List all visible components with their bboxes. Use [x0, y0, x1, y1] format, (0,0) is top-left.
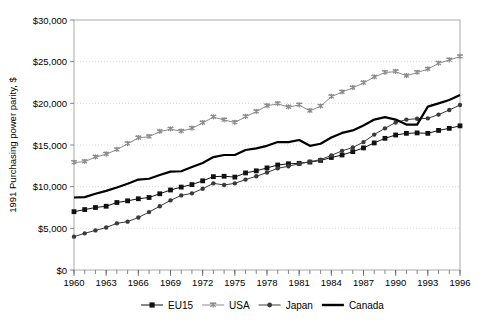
x-tick-label: 1972	[192, 277, 213, 288]
data-point	[308, 159, 312, 163]
data-point	[200, 120, 206, 125]
data-point	[222, 174, 227, 179]
y-tick-label: $0	[56, 265, 67, 276]
data-point	[72, 234, 76, 238]
data-point	[233, 181, 237, 185]
data-point	[276, 166, 280, 170]
data-point	[72, 209, 77, 214]
data-point	[190, 182, 195, 187]
data-point	[179, 185, 184, 190]
data-point	[371, 74, 377, 79]
legend-label: EU15	[168, 300, 193, 311]
data-point	[211, 181, 215, 185]
data-point	[372, 141, 377, 146]
data-point	[114, 200, 119, 205]
chart-legend: EU15USAJapanCanada	[141, 300, 384, 311]
x-axis-ticks	[74, 270, 460, 276]
data-point	[297, 162, 301, 166]
data-point	[125, 219, 129, 223]
y-axis-ticks	[70, 20, 74, 270]
legend-item-canada[interactable]: Canada	[322, 300, 384, 311]
data-point	[415, 131, 420, 136]
series-eu15	[72, 123, 463, 214]
data-point	[243, 171, 248, 176]
data-point	[458, 103, 462, 107]
data-point	[232, 175, 237, 180]
legend-item-eu15[interactable]: EU15	[141, 300, 193, 311]
data-point	[286, 164, 290, 168]
data-point	[114, 147, 120, 152]
y-axis-tick-labels: $0$5,000$10,000$15,000$20,000$25,000$30,…	[33, 15, 67, 276]
y-axis-title: 1991 Purchasing power parity, $	[7, 77, 18, 213]
data-point	[458, 123, 463, 128]
data-point	[115, 221, 119, 225]
x-axis-tick-labels: 1960196319661969197219751978198119841987…	[63, 277, 470, 288]
x-tick-label: 1990	[385, 277, 406, 288]
data-point	[253, 109, 259, 114]
data-series-layer	[71, 54, 463, 239]
data-point	[254, 168, 259, 173]
x-tick-label: 1969	[160, 277, 181, 288]
x-tick-label: 1975	[224, 277, 245, 288]
data-point	[125, 141, 131, 146]
data-point	[243, 177, 247, 181]
data-point	[104, 204, 109, 209]
legend-marker-circle	[267, 303, 272, 308]
data-point	[404, 131, 409, 136]
y-tick-label: $30,000	[33, 15, 67, 26]
x-tick-label: 1996	[449, 277, 470, 288]
x-tick-label: 1984	[321, 277, 342, 288]
data-point	[457, 54, 463, 59]
data-point	[351, 145, 355, 149]
legend-item-usa[interactable]: USA	[202, 300, 250, 311]
data-point	[190, 191, 194, 195]
data-point	[243, 114, 249, 119]
data-point	[350, 85, 356, 90]
data-point	[426, 116, 430, 120]
data-point	[200, 178, 205, 183]
data-point	[383, 136, 388, 141]
data-point	[436, 128, 441, 133]
data-point	[447, 108, 451, 112]
series-usa	[71, 54, 463, 165]
x-tick-label: 1960	[63, 277, 84, 288]
legend-label: Japan	[286, 300, 313, 311]
legend-item-japan[interactable]: Japan	[259, 300, 313, 311]
data-point	[361, 146, 366, 151]
data-point	[93, 205, 98, 210]
data-point	[425, 131, 430, 136]
data-point	[265, 166, 270, 171]
data-point	[447, 126, 452, 131]
data-point	[104, 225, 108, 229]
data-point	[296, 102, 302, 107]
y-tick-label: $5,000	[38, 223, 67, 234]
x-tick-label: 1966	[128, 277, 149, 288]
data-point	[200, 187, 204, 191]
data-point	[136, 196, 141, 201]
data-point	[147, 210, 151, 214]
data-point	[211, 174, 216, 179]
data-point	[147, 195, 152, 200]
data-point	[210, 114, 216, 119]
series-canada	[74, 95, 460, 198]
data-point	[157, 191, 162, 196]
data-point	[350, 149, 355, 154]
data-point	[361, 140, 365, 144]
data-point	[179, 193, 183, 197]
y-tick-label: $15,000	[33, 140, 67, 151]
gridlines	[74, 20, 460, 228]
legend-label: Canada	[349, 300, 384, 311]
data-point	[168, 198, 172, 202]
line-chart: $0$5,000$10,000$15,000$20,000$25,000$30,…	[0, 0, 479, 323]
data-point	[168, 126, 174, 131]
data-point	[318, 157, 322, 161]
data-point	[103, 151, 109, 156]
data-point	[393, 133, 398, 138]
data-point	[189, 126, 195, 131]
data-point	[328, 94, 334, 99]
data-point	[136, 215, 140, 219]
data-point	[318, 103, 324, 108]
data-point	[158, 204, 162, 208]
data-point	[404, 117, 408, 121]
data-point	[329, 153, 333, 157]
